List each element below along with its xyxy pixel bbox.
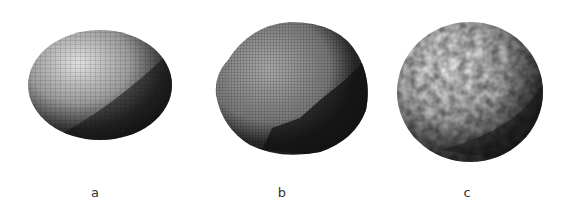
sphere-a xyxy=(28,30,172,140)
panel-label-b: b xyxy=(272,185,292,200)
figure-canvas xyxy=(0,0,565,216)
sphere-c xyxy=(396,22,545,165)
sphere-b xyxy=(210,18,370,163)
panel-label-c: c xyxy=(457,185,477,200)
panel-label-a: a xyxy=(85,185,105,200)
